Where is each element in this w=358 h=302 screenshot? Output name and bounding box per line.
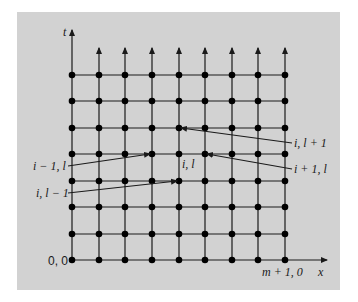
grid-node [69, 178, 76, 185]
x-axis-label: x [318, 266, 323, 278]
grid-node [229, 231, 236, 238]
grid-node [282, 98, 289, 105]
grid-node [202, 178, 209, 185]
t-axis-label: t [63, 26, 66, 38]
grid-node [202, 98, 209, 105]
grid-node [202, 257, 209, 264]
grid-node [229, 178, 236, 185]
grid-node [96, 98, 103, 105]
grid-node [255, 72, 262, 79]
grid-node [202, 125, 209, 132]
grid-node [96, 257, 103, 264]
grid-node [202, 72, 209, 79]
grid-node [229, 151, 236, 158]
down-neighbor-label: i, l − 1 [36, 187, 69, 199]
grid-node [255, 204, 262, 211]
grid-node [122, 231, 129, 238]
grid-node [255, 257, 262, 264]
grid-node [229, 204, 236, 211]
grid-node [69, 125, 76, 132]
center-node-label: i, l [182, 158, 195, 170]
grid-node [149, 72, 156, 79]
grid-node [176, 257, 183, 264]
corner-label: m + 1, 0 [262, 266, 303, 278]
grid-node [255, 178, 262, 185]
grid-node [255, 231, 262, 238]
grid-node [122, 204, 129, 211]
grid-node [282, 257, 289, 264]
grid-node [229, 125, 236, 132]
pointer-arrow [207, 154, 292, 169]
grid-node [176, 231, 183, 238]
pointer-arrow [181, 128, 292, 143]
pointer-arrow [68, 154, 150, 166]
grid-node [176, 204, 183, 211]
grid-node [229, 98, 236, 105]
right-neighbor-label: i + 1, l [294, 163, 327, 175]
grid-node [96, 178, 103, 185]
grid-node [149, 125, 156, 132]
grid-node [282, 125, 289, 132]
grid-node [96, 125, 103, 132]
grid-node [96, 72, 103, 79]
grid-lines [72, 30, 327, 260]
grid-node [149, 231, 156, 238]
grid-node [69, 257, 76, 264]
grid-node [122, 98, 129, 105]
grid-node [149, 98, 156, 105]
grid-node [122, 151, 129, 158]
grid-node [255, 151, 262, 158]
grid-node [229, 72, 236, 79]
grid-node [96, 231, 103, 238]
grid-node [69, 98, 76, 105]
grid-node [282, 72, 289, 79]
grid-node [69, 72, 76, 79]
grid-node [202, 204, 209, 211]
grid-node [122, 257, 129, 264]
grid-node [229, 257, 236, 264]
grid-node [69, 204, 76, 211]
up-neighbor-label: i, l + 1 [294, 137, 327, 149]
grid-node [176, 98, 183, 105]
grid-node [122, 125, 129, 132]
grid-node [69, 231, 76, 238]
grid-node [69, 151, 76, 158]
grid-node [96, 204, 103, 211]
grid-node [122, 72, 129, 79]
grid-node [149, 257, 156, 264]
left-neighbor-label: i − 1, l [33, 160, 66, 172]
grid-node [96, 151, 103, 158]
grid-node [282, 178, 289, 185]
grid-node [282, 151, 289, 158]
grid-node [122, 178, 129, 185]
grid-node [255, 98, 262, 105]
grid-node [282, 231, 289, 238]
grid-node [202, 231, 209, 238]
grid-node [282, 204, 289, 211]
grid-node [149, 204, 156, 211]
grid-node [255, 125, 262, 132]
origin-label: 0, 0 [48, 255, 68, 267]
grid-node [176, 72, 183, 79]
